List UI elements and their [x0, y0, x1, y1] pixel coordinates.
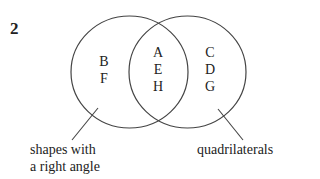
element-b: B — [94, 53, 114, 70]
set-label-right-angle: shapes with a right angle — [30, 141, 100, 175]
element-g: G — [200, 78, 220, 95]
region-right-only: C D G — [200, 44, 220, 95]
element-c: C — [200, 44, 220, 61]
region-intersection: A E H — [148, 44, 168, 95]
element-e: E — [148, 61, 168, 78]
element-h: H — [148, 78, 168, 95]
set-label-quadrilaterals: quadrilaterals — [197, 141, 273, 158]
element-d: D — [200, 61, 220, 78]
region-left-only: B F — [94, 53, 114, 87]
pointer-line-right — [218, 109, 243, 140]
element-f: F — [94, 70, 114, 87]
element-a: A — [148, 44, 168, 61]
pointer-line-left — [72, 108, 98, 140]
